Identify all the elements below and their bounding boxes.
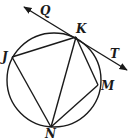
segment-NJ bbox=[12, 57, 51, 127]
circle bbox=[7, 33, 101, 127]
segment-JK bbox=[12, 37, 76, 57]
label-J: J bbox=[0, 50, 9, 64]
label-K: K bbox=[75, 22, 87, 36]
label-N: N bbox=[44, 127, 57, 139]
label-T: T bbox=[110, 47, 120, 61]
label-M: M bbox=[100, 79, 115, 93]
segment-MN bbox=[51, 85, 98, 127]
label-Q: Q bbox=[40, 4, 51, 18]
geometry-diagram: Q K T J M N bbox=[0, 0, 130, 139]
segment-KM bbox=[76, 37, 98, 85]
segment-KN bbox=[51, 37, 76, 127]
diagram-canvas: Q K T J M N bbox=[0, 0, 130, 139]
